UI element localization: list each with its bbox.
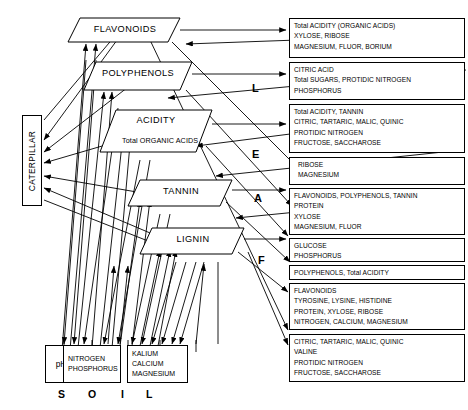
node-label-tannin[interactable]: TANNIN [140, 186, 222, 196]
result-box-3-line-2: PROTIDIC NITROGEN [294, 128, 461, 138]
soil-letter-l: L [146, 388, 153, 400]
result-box-4[interactable]: RIBOSE MAGNESIUM [289, 157, 465, 185]
node-label-flavonoids[interactable]: FLAVONOIDS [80, 24, 170, 34]
result-box-1[interactable]: Total ACIDITY (ORGANIC ACIDS) XYLOSE, RI… [289, 18, 465, 58]
soil-np-line-1: PHOSPHORUS [68, 364, 120, 374]
leaf-letter-a: A [254, 192, 262, 204]
soil-box-nitrogen-phosphorus[interactable]: NITROGEN PHOSPHORUS [63, 345, 121, 383]
result-box-6-line-1: PHOSPHORUS [294, 251, 461, 261]
result-box-2-line-0: CITRIC ACID [294, 65, 461, 75]
leaf-letter-e: E [252, 148, 259, 160]
node-sublabel-acidity: Total ORGANIC ACIDS [122, 136, 198, 145]
soil-np-line-0: NITROGEN [68, 354, 120, 364]
result-box-7-line-0: POLYPHENOLS, Total ACIDITY [294, 268, 461, 278]
result-box-8[interactable]: FLAVONOIDS TYROSINE, LYSINE, HISTIDINE P… [289, 283, 465, 330]
result-box-2-line-1: Total SUGARS, PROTIDIC NITROGEN [294, 75, 461, 85]
leaf-letter-f: F [258, 254, 265, 266]
result-box-1-line-1: XYLOSE, RIBOSE [294, 31, 461, 41]
result-box-7[interactable]: POLYPHENOLS, Total ACIDITY [289, 265, 465, 280]
node-label-acidity[interactable]: ACIDITY [110, 115, 202, 125]
result-box-8-line-2: PROTEIN, XYLOSE, RIBOSE [294, 307, 461, 317]
soil-letter-i: I [121, 388, 124, 400]
leaf-letter-l: L [252, 82, 259, 94]
result-box-2[interactable]: CITRIC ACID Total SUGARS, PROTIDIC NITRO… [289, 62, 465, 100]
result-box-3[interactable]: Total ACIDITY, TANNIN CITRIC, TARTARIC, … [289, 104, 465, 153]
soil-kcm-line-2: MAGNESIUM [132, 369, 187, 379]
result-box-1-line-0: Total ACIDITY (ORGANIC ACIDS) [294, 21, 461, 31]
result-box-9-line-2: PROTIDIC NITROGEN [294, 358, 461, 368]
result-box-5-line-2: XYLOSE [294, 212, 461, 222]
result-box-1-line-2: MAGNESIUM, FLUOR, BORIUM [294, 42, 461, 52]
soil-letter-s: S [58, 388, 66, 400]
result-box-9-line-0: CITRIC, TARTARIC, MALIC, QUINIC [294, 337, 461, 347]
result-box-3-line-1: CITRIC, TARTARIC, MALIC, QUINIC [294, 117, 461, 127]
result-box-5[interactable]: FLAVONOIDS, POLYPHENOLS, TANNIN PROTEIN … [289, 188, 465, 235]
soil-box-kalium-calcium-magnesium[interactable]: KALIUM CALCIUM MAGNESIUM [127, 345, 188, 383]
result-box-2-line-2: PHOSPHORUS [294, 86, 461, 96]
result-box-5-line-3: MAGNESIUM, FLUOR [294, 222, 461, 232]
result-box-8-line-1: TYROSINE, LYSINE, HISTIDINE [294, 296, 461, 306]
node-label-polyphenols[interactable]: POLYPHENOLS [94, 68, 182, 78]
result-box-4-line-0: RIBOSE [298, 160, 461, 170]
result-box-9-line-3: FRUCTOSE, SACCHAROSE [294, 368, 461, 378]
caterpillar-box[interactable]: CATERPILLAR [22, 115, 42, 206]
result-box-3-line-3: FRUCTOSE, SACCHAROSE [294, 138, 461, 148]
result-box-5-line-1: PROTEIN [294, 201, 461, 211]
result-box-8-line-3: NITROGEN, CALCIUM, MAGNESIUM [294, 317, 461, 327]
caterpillar-label: CATERPILLAR [27, 130, 37, 190]
diagram-canvas: FLAVONOIDS POLYPHENOLS ACIDITY Total ORG… [0, 0, 468, 410]
soil-kcm-line-0: KALIUM [132, 349, 187, 359]
result-box-9-line-1: VALINE [294, 347, 461, 357]
result-box-6-line-0: GLUCOSE [294, 241, 461, 251]
result-box-6[interactable]: GLUCOSE PHOSPHORUS [289, 238, 465, 262]
result-box-4-line-1: MAGNESIUM [298, 170, 461, 180]
soil-kcm-line-1: CALCIUM [132, 359, 187, 369]
result-box-3-line-0: Total ACIDITY, TANNIN [294, 107, 461, 117]
result-box-8-line-0: FLAVONOIDS [294, 286, 461, 296]
node-label-lignin[interactable]: LIGNIN [152, 234, 234, 244]
soil-letter-o: O [88, 388, 97, 400]
result-box-9[interactable]: CITRIC, TARTARIC, MALIC, QUINIC VALINE P… [289, 334, 465, 382]
result-box-5-line-0: FLAVONOIDS, POLYPHENOLS, TANNIN [294, 191, 461, 201]
